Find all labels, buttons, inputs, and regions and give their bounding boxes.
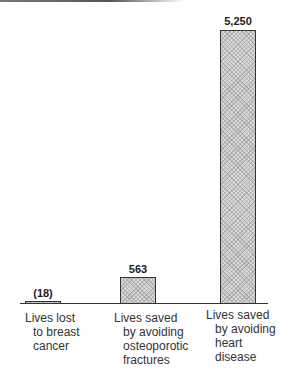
category-label: Lives lost to breast cancer	[25, 311, 80, 353]
bar-osteoporotic-fractures	[120, 277, 156, 304]
label-line: heart	[206, 336, 276, 350]
category-label: Lives saved by avoiding heart disease	[206, 308, 276, 364]
top-rule	[0, 0, 185, 2]
bar-value-label: 5,250	[208, 15, 268, 27]
label-line: cancer	[25, 339, 80, 353]
label-line: Lives lost	[25, 311, 80, 325]
x-axis-baseline	[20, 303, 268, 304]
label-line: disease	[206, 350, 276, 364]
category-label: Lives saved by avoiding osteoporotic fra…	[114, 311, 188, 367]
label-line: by avoiding	[206, 322, 276, 336]
label-line: to breast	[25, 325, 80, 339]
bar-value-label: (18)	[13, 287, 73, 299]
label-line: fractures	[114, 353, 188, 367]
label-line: by avoiding	[114, 325, 188, 339]
label-line: Lives saved	[206, 308, 276, 322]
bar-value-label: 563	[108, 263, 168, 275]
label-line: Lives saved	[114, 311, 188, 325]
label-line: osteoporotic	[114, 339, 188, 353]
bar-heart-disease	[220, 30, 256, 304]
